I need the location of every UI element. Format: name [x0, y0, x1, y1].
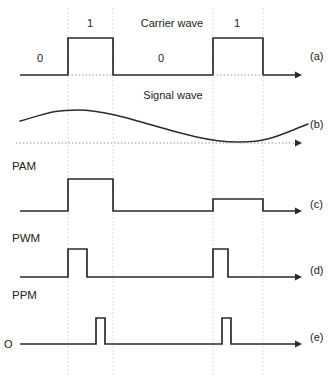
- waveform-canvas: Carrier wave Signal wave 0101 PAM PWM PP…: [0, 0, 336, 382]
- arrowhead-row-d: [295, 273, 302, 280]
- carrier-bit-label-2: 0: [158, 52, 164, 64]
- waveform-pam: [20, 179, 300, 211]
- vertical-guide-lines: [68, 8, 263, 376]
- row-label-pam: PAM: [12, 160, 36, 172]
- waveform-traces: [16, 38, 308, 344]
- side-label-c: (c): [310, 198, 323, 210]
- pulse-modulation-figure: Carrier wave Signal wave 0101 PAM PWM PP…: [0, 0, 336, 382]
- arrowhead-row-e: [295, 340, 302, 347]
- waveform-ppm: [20, 318, 300, 344]
- origin-label: O: [4, 338, 13, 350]
- arrowhead-row-c: [295, 207, 302, 214]
- row-label-pwm: PWM: [12, 232, 40, 244]
- waveform-signal-wave: [20, 110, 308, 142]
- side-label-e: (e): [310, 331, 323, 343]
- waveform-pwm: [20, 249, 300, 277]
- row-label-ppm: PPM: [12, 289, 37, 301]
- side-label-b: (b): [310, 118, 323, 130]
- carrier-bit-label-0: 0: [37, 52, 43, 64]
- arrowhead-row-b: [295, 139, 302, 146]
- signal-wave-title: Signal wave: [143, 89, 202, 101]
- side-label-d: (d): [310, 264, 323, 276]
- carrier-bit-label-1: 1: [87, 17, 93, 29]
- axis-arrowheads: [295, 71, 302, 347]
- carrier-bit-label-3: 1: [234, 17, 240, 29]
- carrier-wave-title: Carrier wave: [141, 17, 203, 29]
- arrowhead-row-a: [295, 71, 302, 78]
- side-label-a: (a): [310, 50, 323, 62]
